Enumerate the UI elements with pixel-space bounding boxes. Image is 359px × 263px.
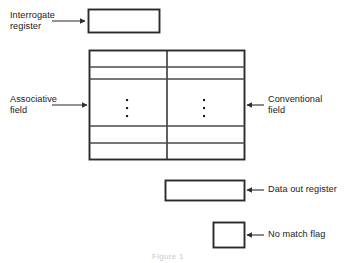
associative-field-label: Associative field [10,94,57,117]
interrogate-register-label: Interrogate register [10,10,55,33]
figure-canvas: Interrogate register Associative field C… [0,0,359,263]
no-match-flag-label: No match flag [268,229,325,240]
figure-caption: Figure 1 [152,252,184,261]
data-out-register-label: Data out register [268,184,337,195]
interrogate-register-box [89,10,160,33]
no-match-flag-box [214,223,245,248]
data-out-register-box [166,181,245,201]
diagram-svg [0,0,359,263]
conventional-field-label: Conventional field [268,94,322,117]
